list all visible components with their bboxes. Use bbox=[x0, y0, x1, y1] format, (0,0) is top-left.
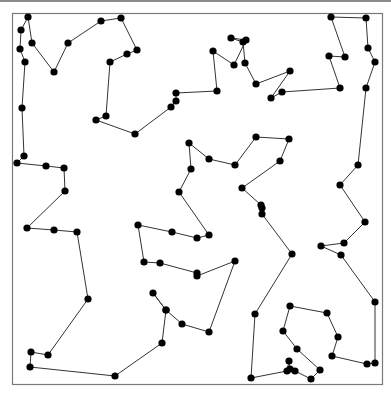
tour-node bbox=[363, 360, 370, 367]
tour-node bbox=[84, 295, 91, 302]
tour-node bbox=[337, 251, 344, 258]
tour-node bbox=[285, 357, 292, 364]
tour-node bbox=[187, 165, 194, 172]
tour-route-line bbox=[17, 17, 375, 379]
tour-node bbox=[341, 53, 348, 60]
tour-node bbox=[16, 45, 23, 52]
tour-node bbox=[185, 139, 192, 146]
tour-node bbox=[205, 328, 212, 335]
tour-node bbox=[73, 228, 80, 235]
tour-node bbox=[106, 58, 113, 65]
tour-node bbox=[307, 375, 314, 382]
tour-node bbox=[92, 116, 99, 123]
tour-node bbox=[60, 164, 67, 171]
tour-node bbox=[131, 130, 138, 137]
tour-node bbox=[251, 310, 258, 317]
tour-node bbox=[13, 159, 20, 166]
tour-node bbox=[168, 228, 175, 235]
tour-node bbox=[205, 231, 212, 238]
tour-node bbox=[117, 14, 124, 21]
tour-node bbox=[205, 155, 212, 162]
tour-node bbox=[24, 13, 31, 20]
tour-node bbox=[238, 184, 245, 191]
tour-node bbox=[123, 50, 130, 57]
tour-node bbox=[241, 59, 248, 66]
tour-node bbox=[61, 187, 68, 194]
tour-node bbox=[340, 239, 347, 246]
tour-node bbox=[42, 162, 49, 169]
tour-node bbox=[209, 47, 216, 54]
tour-node bbox=[247, 374, 254, 381]
tour-node bbox=[276, 157, 283, 164]
tour-node bbox=[227, 34, 234, 41]
tour-node bbox=[293, 345, 300, 352]
tour-node bbox=[230, 61, 237, 68]
tour-node bbox=[44, 351, 51, 358]
tour-node bbox=[102, 112, 109, 119]
tour-node bbox=[328, 352, 335, 359]
tour-node bbox=[231, 257, 238, 264]
tour-node bbox=[133, 46, 140, 53]
tour-node bbox=[354, 161, 361, 168]
tour-node bbox=[26, 363, 33, 370]
tour-node bbox=[149, 289, 156, 296]
tour-diagram bbox=[0, 0, 391, 394]
tour-node bbox=[20, 152, 27, 159]
tour-node bbox=[336, 181, 343, 188]
tour-node bbox=[158, 339, 165, 346]
tour-node bbox=[175, 188, 182, 195]
tour-node bbox=[283, 367, 290, 374]
tour-node bbox=[288, 250, 295, 257]
tour-node bbox=[336, 84, 343, 91]
tour-node bbox=[140, 258, 147, 265]
tour-node bbox=[317, 242, 324, 249]
tour-node bbox=[231, 161, 238, 168]
tour-node bbox=[362, 84, 369, 91]
tour-node bbox=[193, 272, 200, 279]
tour-node bbox=[285, 135, 292, 142]
tour-node bbox=[325, 52, 332, 59]
tour-node bbox=[327, 13, 334, 20]
tour-node bbox=[23, 224, 30, 231]
tour-node bbox=[362, 14, 369, 21]
tour-node bbox=[162, 306, 169, 313]
tour-node bbox=[252, 133, 259, 140]
tour-node bbox=[156, 259, 163, 266]
tour-node bbox=[371, 58, 378, 65]
tour-node bbox=[286, 67, 293, 74]
tour-node bbox=[213, 87, 220, 94]
tour-node bbox=[134, 221, 141, 228]
tour-node bbox=[167, 103, 174, 110]
tour-node bbox=[21, 58, 28, 65]
tour-node bbox=[286, 302, 293, 309]
tour-node bbox=[17, 26, 24, 33]
tour-node bbox=[316, 366, 323, 373]
tour-node bbox=[371, 298, 378, 305]
tour-node bbox=[172, 97, 179, 104]
tour-canvas bbox=[0, 0, 391, 394]
tour-node bbox=[257, 201, 264, 208]
tour-node bbox=[334, 333, 341, 340]
tour-node bbox=[64, 39, 71, 46]
tour-node bbox=[172, 89, 179, 96]
tour-node bbox=[364, 44, 371, 51]
tour-node bbox=[18, 104, 25, 111]
tour-node bbox=[267, 94, 274, 101]
tour-node bbox=[111, 372, 118, 379]
tour-node bbox=[97, 17, 104, 24]
tour-node bbox=[28, 39, 35, 46]
tour-node bbox=[193, 234, 200, 241]
tour-node bbox=[252, 80, 259, 87]
tour-node bbox=[279, 327, 286, 334]
tour-node bbox=[50, 68, 57, 75]
tour-node bbox=[50, 226, 57, 233]
tour-node bbox=[239, 38, 246, 45]
tour-node bbox=[278, 88, 285, 95]
tour-node bbox=[361, 218, 368, 225]
tour-node bbox=[178, 320, 185, 327]
tour-node bbox=[323, 309, 330, 316]
tour-node bbox=[371, 359, 378, 366]
tour-node bbox=[27, 348, 34, 355]
